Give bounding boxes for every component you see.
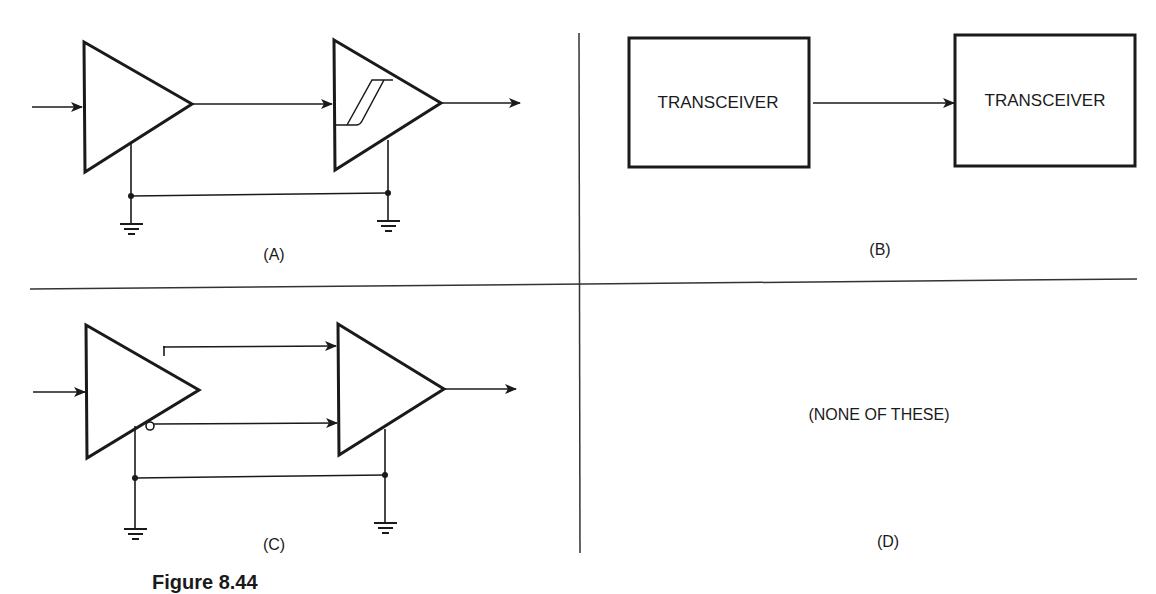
ground-icon — [124, 529, 147, 539]
ground-icon — [377, 221, 400, 231]
differential-receiver-triangle — [338, 324, 444, 455]
transceiver-left-label: TRANSCEIVER — [658, 93, 779, 113]
panel-a-circuit — [32, 40, 520, 224]
junction-dot — [132, 475, 138, 481]
transceiver-right-label: TRANSCEIVER — [985, 91, 1106, 111]
ground-bus — [135, 475, 385, 478]
ground-icon — [120, 224, 143, 234]
figure-caption: Figure 8.44 — [152, 571, 258, 594]
vertical-divider — [579, 33, 580, 553]
junction-dot — [385, 190, 391, 196]
panel-d-label: (D) — [877, 533, 899, 551]
none-of-these-text: (NONE OF THESE) — [808, 406, 949, 424]
panel-b-label: (B) — [869, 241, 890, 259]
horizontal-divider — [30, 279, 1137, 289]
inversion-bubble — [146, 422, 154, 430]
true-output-wire — [164, 346, 336, 348]
junction-dot — [382, 472, 388, 478]
panel-c-circuit — [33, 324, 516, 529]
differential-driver-triangle — [86, 325, 199, 458]
panel-a-label: (A) — [263, 246, 284, 264]
ground-icon — [374, 523, 397, 533]
hysteresis-icon — [334, 80, 393, 125]
junction-dot — [128, 193, 134, 199]
inverted-output-wire — [153, 423, 337, 424]
panel-c-label: (C) — [263, 536, 285, 554]
ground-bus — [131, 193, 388, 196]
amplifier-triangle — [84, 42, 192, 172]
